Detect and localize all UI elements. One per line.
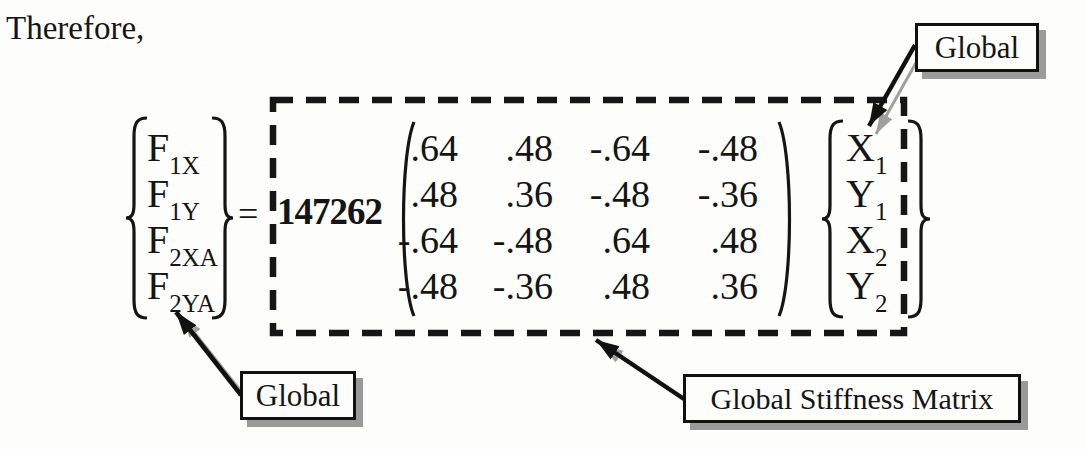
entry-base: F — [147, 263, 169, 308]
matrix-cell: .48 — [394, 171, 458, 217]
entry-base: X — [846, 217, 875, 262]
entry-subscript: 2YA — [169, 290, 215, 317]
matrix-cell: -.64 — [586, 125, 650, 171]
entry-subscript: 1Y — [169, 198, 200, 225]
entry-base: X — [846, 125, 875, 170]
matrix-cell: -.48 — [694, 125, 758, 171]
matrix-cell: .48 — [489, 125, 553, 171]
matrix-cell: .36 — [694, 263, 758, 309]
force-vector: F1X F1Y F2XA F2YA — [147, 125, 218, 309]
matrix-close-paren — [779, 122, 790, 316]
entry-subscript: 2XA — [169, 244, 218, 271]
displacement-vector-left-brace — [822, 121, 843, 317]
callout-global-top: Global — [915, 23, 1039, 72]
document-page: Therefore, F1X F1Y F2XA F2YA = 147262 .6… — [0, 0, 1086, 449]
intro-text: Therefore, — [6, 10, 144, 47]
entry-base: F — [147, 125, 169, 170]
arrow-global-bottom — [176, 312, 241, 395]
arrow-stiffness — [596, 340, 684, 399]
entry-base: Y — [846, 171, 875, 216]
scalar-multiplier: 147262 — [277, 192, 382, 232]
entry-subscript: 1X — [169, 152, 200, 179]
matrix-cell: -.48 — [489, 217, 553, 263]
matrix-cell: .36 — [489, 171, 553, 217]
callout-label: Global — [256, 378, 340, 414]
equals-sign: = — [238, 194, 258, 234]
force-vector-entry: F1X — [147, 125, 218, 171]
force-vector-left-brace — [126, 118, 147, 318]
matrix-cell: .64 — [586, 217, 650, 263]
matrix-cell: -.48 — [394, 263, 458, 309]
entry-subscript: 2 — [875, 244, 888, 271]
callout-label: Global Stiffness Matrix — [711, 382, 994, 416]
entry-base: F — [147, 217, 169, 262]
matrix-cell: -.64 — [394, 217, 458, 263]
entry-subscript: 2 — [875, 290, 888, 317]
matrix-cell: .48 — [694, 217, 758, 263]
entry-base: F — [147, 171, 169, 216]
callout-global-bottom: Global — [240, 371, 356, 420]
displacement-vector-entry: X1 — [846, 125, 887, 171]
callout-label: Global — [935, 30, 1019, 66]
entry-base: Y — [846, 263, 875, 308]
matrix-cell: -.36 — [694, 171, 758, 217]
entry-subscript: 1 — [875, 198, 888, 225]
matrix-cell: -.48 — [586, 171, 650, 217]
arrow-global-top — [869, 45, 915, 126]
callout-global-stiffness-matrix: Global Stiffness Matrix — [683, 374, 1021, 423]
entry-subscript: 1 — [875, 152, 888, 179]
displacement-vector-right-brace — [908, 121, 930, 317]
matrix-cell: -.36 — [489, 263, 553, 309]
matrix-cell: .48 — [586, 263, 650, 309]
displacement-vector: X1 Y1 X2 Y2 — [846, 125, 887, 309]
matrix-cell: .64 — [394, 125, 458, 171]
